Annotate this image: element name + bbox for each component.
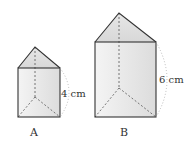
prism-a: 4 cm A	[18, 47, 86, 139]
prism-b-front-face	[95, 42, 156, 117]
prism-a-label: A	[29, 126, 39, 139]
prism-diagram: 4 cm A 6 cm B	[0, 0, 190, 145]
prism-b-height-label: 6 cm	[159, 74, 184, 85]
prism-b-top-face	[95, 13, 156, 42]
prism-b: 6 cm B	[95, 13, 184, 139]
prism-b-label: B	[120, 126, 128, 139]
prism-a-height-label: 4 cm	[61, 88, 86, 99]
